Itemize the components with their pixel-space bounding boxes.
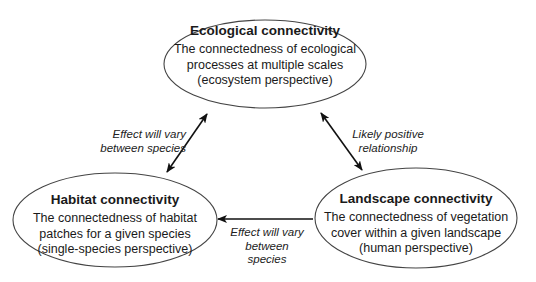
habitat-node: Habitat connectivity The connectedness o… bbox=[14, 191, 216, 258]
ecological-habitat-label: Effect will vary between species bbox=[96, 128, 186, 155]
ecological-node-title: Ecological connectivity bbox=[165, 22, 365, 40]
ecological-node: Ecological connectivity The connectednes… bbox=[165, 22, 365, 89]
habitat-node-description: The connectedness of habitat patches for… bbox=[14, 211, 216, 258]
ecological-landscape-label: Likely positive relationship bbox=[338, 128, 438, 155]
landscape-node: Landscape connectivity The connectedness… bbox=[316, 190, 516, 257]
habitat-node-title: Habitat connectivity bbox=[14, 191, 216, 209]
ecological-node-description: The connectedness of ecological processe… bbox=[165, 42, 365, 89]
landscape-node-description: The connectedness of vegetation cover wi… bbox=[316, 210, 516, 257]
landscape-node-title: Landscape connectivity bbox=[316, 190, 516, 208]
connectivity-diagram: Ecological connectivity The connectednes… bbox=[0, 0, 536, 282]
landscape-habitat-label: Effect will vary between species bbox=[225, 226, 309, 267]
